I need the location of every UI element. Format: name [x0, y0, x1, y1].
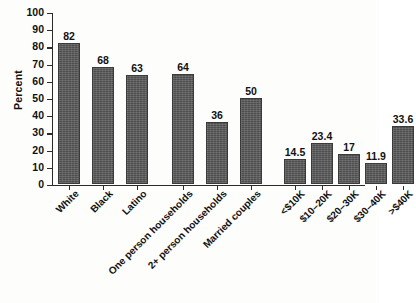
y-tick: 60 [47, 82, 52, 83]
y-tick: 30 [47, 133, 52, 134]
bar-value-label: 68 [97, 54, 109, 66]
y-tick: 10 [47, 168, 52, 169]
bar: 50 [240, 98, 262, 184]
bar-value-label: 64 [177, 61, 189, 73]
bar: 23.4 [311, 143, 333, 183]
x-tick-label: >$40K [386, 188, 416, 218]
x-tick-label: Latino [120, 188, 150, 218]
x-axis-line [52, 185, 365, 186]
y-tick-label: 30 [32, 126, 44, 139]
bar-value-label: 33.6 [393, 113, 413, 125]
y-tick-label: 0 [38, 178, 44, 191]
y-tick-label: 70 [32, 58, 44, 71]
y-tick: 40 [47, 116, 52, 117]
bar-value-label: 11.9 [366, 150, 386, 162]
bar-value-label: 63 [131, 62, 143, 74]
y-tick: 90 [47, 30, 52, 31]
bar: 82 [58, 43, 80, 184]
bar: 17 [338, 154, 360, 183]
y-tick-label: 80 [32, 40, 44, 53]
y-tick-label: 50 [32, 92, 44, 105]
y-tick: 70 [47, 65, 52, 66]
bar-value-label: 23.4 [312, 130, 332, 142]
x-tick-label: White [54, 188, 82, 216]
bar: 68 [92, 67, 114, 184]
bar: 64 [172, 74, 194, 184]
bar: 36 [206, 122, 228, 184]
y-tick-label: 40 [32, 109, 44, 122]
y-tick-label: 10 [32, 161, 44, 174]
x-tick-label: Black [88, 188, 115, 215]
plot-area: 0102030405060708090100 82686364365014.52… [52, 13, 365, 185]
bar-value-label: 36 [211, 109, 223, 121]
y-tick-label: 100 [26, 6, 44, 19]
y-tick: 80 [47, 47, 52, 48]
bar-value-label: 82 [63, 30, 75, 42]
y-tick: 100 [47, 13, 52, 14]
bar: 11.9 [365, 163, 387, 184]
y-tick-label: 90 [32, 23, 44, 36]
y-axis-line [52, 13, 53, 186]
bar-value-label: 17 [343, 141, 355, 153]
bar: 63 [126, 75, 148, 183]
bar-value-label: 14.5 [285, 146, 305, 158]
bar-value-label: 50 [245, 85, 257, 97]
y-tick: 50 [47, 99, 52, 100]
bar: 33.6 [392, 126, 414, 184]
y-tick: 20 [47, 151, 52, 152]
y-tick-label: 60 [32, 75, 44, 88]
bar: 14.5 [284, 159, 306, 184]
y-tick: 0 [47, 185, 52, 186]
y-axis-title: Percent [12, 60, 24, 120]
y-tick-label: 20 [32, 144, 44, 157]
